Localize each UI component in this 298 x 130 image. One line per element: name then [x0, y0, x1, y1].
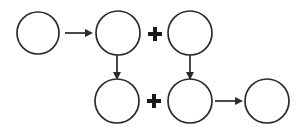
plus-icon-vertical-bar	[153, 27, 157, 41]
circle-shape[interactable]	[95, 79, 139, 123]
circle-flow-diagram	[0, 0, 298, 130]
node-node-1[interactable]	[17, 12, 59, 54]
circle-shape[interactable]	[168, 11, 212, 55]
node-node-5[interactable]	[168, 79, 212, 123]
node-node-3[interactable]	[168, 11, 212, 55]
circle-shape[interactable]	[17, 12, 59, 54]
diagram-canvas	[0, 0, 298, 130]
plus-icon-vertical-bar	[152, 94, 156, 108]
circle-shape[interactable]	[245, 79, 289, 123]
circle-shape[interactable]	[168, 79, 212, 123]
circle-shape[interactable]	[96, 11, 140, 55]
node-node-6[interactable]	[245, 79, 289, 123]
node-node-4[interactable]	[95, 79, 139, 123]
node-node-2[interactable]	[96, 11, 140, 55]
